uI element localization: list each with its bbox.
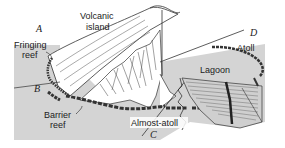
stage-letter-d: D [249,27,258,38]
stage-letter-a: A [35,23,43,34]
label-atoll: Atoll [237,43,255,53]
label-lagoon: Lagoon [200,65,230,75]
label-almost-atoll: Almost-atoll [131,118,178,128]
label-volcanic-island-2: island [86,22,110,32]
reef-formation-diagram: A B C D Volcanic island Fringing reef Ba… [0,0,285,148]
label-fringing-reef-2: reef [22,50,38,60]
label-volcanic-island-1: Volcanic [80,11,114,21]
label-barrier-reef-2: reef [50,120,66,130]
stage-letter-b: B [34,83,40,94]
stage-letter-c: C [150,129,157,140]
label-fringing-reef-1: Fringing [14,40,47,50]
label-barrier-reef-1: Barrier [44,110,71,120]
